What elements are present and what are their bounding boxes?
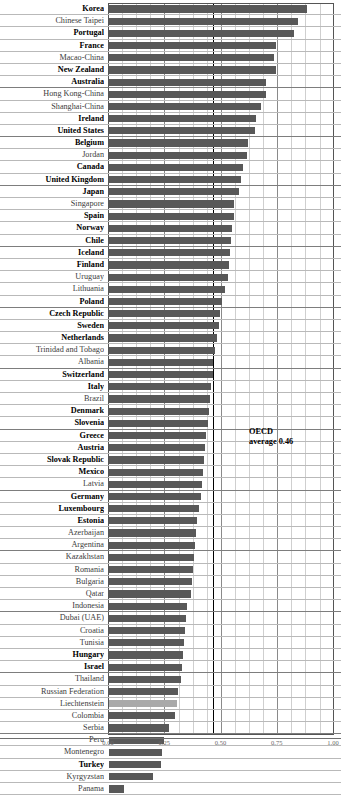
category-label: Hong Kong-China <box>0 88 104 100</box>
chart-row: Portugal <box>0 27 341 39</box>
bar <box>109 408 209 415</box>
bar-track <box>109 783 333 795</box>
bar-track <box>109 405 333 417</box>
category-label: Israel <box>0 661 104 673</box>
bar <box>109 542 195 549</box>
bar-track <box>109 771 333 783</box>
chart-row: Israel <box>0 661 341 673</box>
bar <box>109 749 162 756</box>
bar-track <box>109 478 333 490</box>
chart-row: Denmark <box>0 405 341 417</box>
bar <box>109 213 234 220</box>
category-label: Serbia <box>0 722 104 734</box>
category-label: Luxembourg <box>0 503 104 515</box>
x-axis-tick-labels: 0.000.250.500.751.00 <box>108 739 334 744</box>
chart-row: Hungary <box>0 649 341 661</box>
bar <box>109 188 239 195</box>
chart-row: Tunisia <box>0 637 341 649</box>
bar <box>109 139 248 146</box>
bar <box>109 383 211 390</box>
bar-track <box>109 698 333 710</box>
category-label: Korea <box>0 3 104 15</box>
bar <box>109 700 177 707</box>
chart-row: Croatia <box>0 625 341 637</box>
x-tick-label: 0.00 <box>102 739 113 746</box>
category-label: Uruguay <box>0 271 104 283</box>
category-label: Croatia <box>0 625 104 637</box>
bar-track <box>109 271 333 283</box>
chart-rows: KoreaChinese TaipeiPortugalFranceMacao-C… <box>0 3 341 735</box>
bar <box>109 176 241 183</box>
bar <box>109 773 153 780</box>
bar-track <box>109 40 333 52</box>
bar-track <box>109 564 333 576</box>
category-label: Brazil <box>0 393 104 405</box>
category-label: Japan <box>0 186 104 198</box>
category-label: Canada <box>0 161 104 173</box>
chart-row: Uruguay <box>0 271 341 283</box>
chart-row: Azerbaijan <box>0 527 341 539</box>
bar-track <box>109 466 333 478</box>
chart-row: Kazakhstan <box>0 551 341 563</box>
bar-track <box>109 198 333 210</box>
bar <box>109 371 213 378</box>
bar-track <box>109 174 333 186</box>
category-label: Austria <box>0 442 104 454</box>
bar-track <box>109 235 333 247</box>
chart-row: Belgium <box>0 137 341 149</box>
chart-row: Montenegro <box>0 746 341 758</box>
bar <box>109 127 255 134</box>
category-label: Mexico <box>0 466 104 478</box>
category-label: Albania <box>0 356 104 368</box>
bar <box>109 712 175 719</box>
bar-track <box>109 442 333 454</box>
bar-track <box>109 137 333 149</box>
bar <box>109 664 182 671</box>
chart-row: Italy <box>0 381 341 393</box>
chart-row: Dubai (UAE) <box>0 612 341 624</box>
bar-track <box>109 673 333 685</box>
chart-row: Singapore <box>0 198 341 210</box>
category-label: Hungary <box>0 649 104 661</box>
bar-track <box>109 149 333 161</box>
chart-row: Argentina <box>0 539 341 551</box>
bar-track <box>109 296 333 308</box>
bar-track <box>109 88 333 100</box>
chart-row: New Zealand <box>0 64 341 76</box>
x-tick-label: 0.50 <box>215 739 226 746</box>
category-label: Romania <box>0 564 104 576</box>
bar <box>109 395 210 402</box>
bar-track <box>109 600 333 612</box>
category-label: Shanghai-China <box>0 101 104 113</box>
bar <box>109 30 294 37</box>
chart-row: Trinidad and Tobago <box>0 344 341 356</box>
bar <box>109 54 274 61</box>
bar <box>109 761 161 768</box>
category-label: Chile <box>0 235 104 247</box>
oecd-annotation-line1: OECD <box>249 427 293 437</box>
category-label: Slovenia <box>0 417 104 429</box>
bar-track <box>109 539 333 551</box>
chart-row: Finland <box>0 259 341 271</box>
category-label: Netherlands <box>0 332 104 344</box>
category-label: Colombia <box>0 710 104 722</box>
chart-row: Jordan <box>0 149 341 161</box>
category-label: Indonesia <box>0 600 104 612</box>
category-label: France <box>0 40 104 52</box>
chart-row: Panama <box>0 783 341 795</box>
bar <box>109 481 202 488</box>
category-label: Italy <box>0 381 104 393</box>
x-tick-label: 0.75 <box>271 739 282 746</box>
bar <box>109 115 256 122</box>
bar <box>109 529 196 536</box>
bar-track <box>109 527 333 539</box>
chart-row: Poland <box>0 296 341 308</box>
chart-row: Brazil <box>0 393 341 405</box>
bar-track <box>109 612 333 624</box>
chart-row: Indonesia <box>0 600 341 612</box>
bar-track <box>109 686 333 698</box>
category-label: Dubai (UAE) <box>0 612 104 624</box>
bar-track <box>109 454 333 466</box>
bar <box>109 651 183 658</box>
